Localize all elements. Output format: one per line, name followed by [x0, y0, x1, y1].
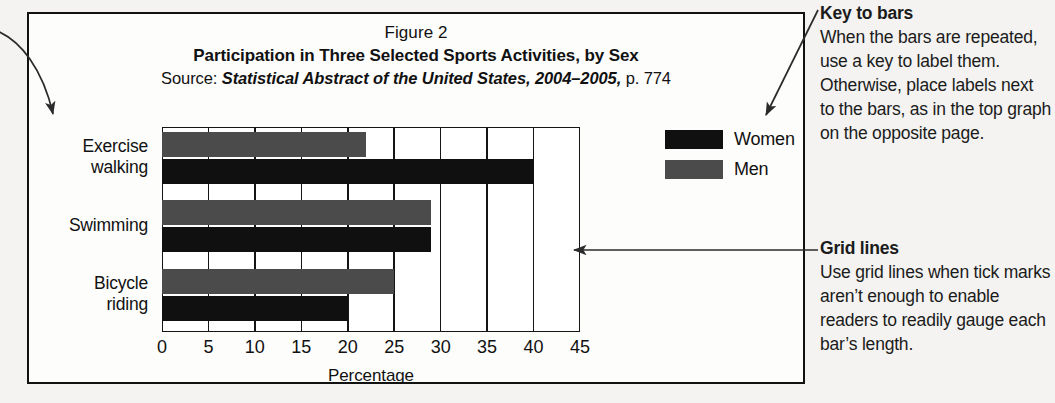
category-label: Exercisewalking	[28, 136, 148, 178]
x-tick-label: 40	[524, 336, 544, 358]
bar-group	[162, 132, 580, 200]
annotation-body: When the bars are repeated, use a key to…	[820, 25, 1052, 145]
legend-swatch-women	[665, 130, 723, 149]
x-tick-label: 5	[203, 336, 213, 358]
x-tick-label: 25	[384, 336, 404, 358]
bar-men	[162, 132, 366, 157]
source-page: p. 774	[621, 69, 671, 87]
figure-box: Figure 2 Participation in Three Selected…	[27, 12, 805, 384]
category-label-line: Exercise	[28, 136, 148, 157]
figure-number: Figure 2	[29, 22, 803, 44]
annotation-grid-lines: Grid lines Use grid lines when tick mark…	[820, 237, 1052, 356]
source-prefix: Source:	[161, 69, 222, 87]
annotation-body: Use grid lines when tick marks aren’t en…	[820, 260, 1052, 356]
figure-source: Source: Statistical Abstract of the Unit…	[29, 67, 803, 90]
figure-title: Participation in Three Selected Sports A…	[29, 44, 803, 67]
figure-title-block: Figure 2 Participation in Three Selected…	[29, 22, 803, 90]
x-tick-label: 35	[477, 336, 497, 358]
legend-item: Women	[665, 126, 795, 152]
source-citation: Statistical Abstract of the United State…	[222, 69, 621, 87]
legend-label: Women	[734, 129, 795, 150]
plot-area	[162, 127, 580, 332]
bar-men	[162, 269, 394, 294]
bar-group	[162, 269, 580, 337]
x-axis-tick-labels: 051015202530354045	[162, 336, 580, 360]
bar-women	[162, 159, 534, 184]
x-tick-label: 15	[291, 336, 311, 358]
bar-men	[162, 200, 431, 225]
annotation-heading: Grid lines	[820, 237, 1052, 260]
x-tick-label: 0	[157, 336, 167, 358]
category-label: Swimming	[28, 215, 148, 236]
x-tick-label: 30	[431, 336, 451, 358]
legend-label: Men	[734, 159, 768, 180]
bar-women	[162, 296, 348, 321]
legend-swatch-men	[665, 160, 723, 179]
category-label-line: walking	[28, 157, 148, 178]
x-tick-label: 20	[338, 336, 358, 358]
chart-legend: WomenMen	[665, 126, 795, 186]
category-label: Bicycleriding	[28, 273, 148, 315]
x-axis-title: Percentage	[162, 366, 580, 386]
category-label-line: riding	[28, 294, 148, 315]
category-label-line: Swimming	[28, 215, 148, 236]
legend-item: Men	[665, 156, 795, 182]
bar-group	[162, 200, 580, 268]
x-tick-label: 45	[570, 336, 590, 358]
x-tick-label: 10	[245, 336, 265, 358]
figure-page: Figure 2 Participation in Three Selected…	[0, 0, 1055, 403]
category-label-line: Bicycle	[28, 273, 148, 294]
annotation-key-to-bars: Key to bars When the bars are repeated, …	[820, 2, 1052, 145]
annotation-heading: Key to bars	[820, 2, 1052, 25]
bar-women	[162, 227, 431, 252]
